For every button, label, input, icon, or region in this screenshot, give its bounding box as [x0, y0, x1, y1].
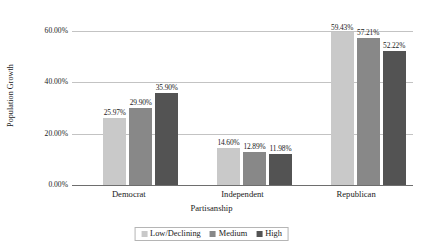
bar[interactable] — [217, 148, 240, 185]
bar-value-label: 59.43% — [331, 24, 353, 31]
bar[interactable] — [383, 51, 406, 185]
x-axis-title-text: Partisanship — [190, 203, 232, 213]
legend-swatch-icon — [256, 231, 262, 237]
bar-slot: 25.97% — [102, 30, 127, 185]
bar[interactable] — [155, 93, 178, 185]
x-axis-category-label: Democrat — [72, 189, 186, 199]
bar-value-label: 25.97% — [104, 109, 126, 116]
legend-label: Medium — [219, 230, 247, 238]
bar-chart: Population Growth 0.00%20.00%40.00%60.00… — [0, 0, 423, 252]
x-axis-category-label: Independent — [186, 189, 300, 199]
bar-slot: 59.43% — [330, 30, 355, 185]
bar-group-democrat: 25.97%29.90%35.90% — [102, 30, 180, 185]
bar-value-label: 52.22% — [383, 42, 405, 49]
x-axis-line — [72, 185, 413, 186]
legend-swatch-icon — [210, 231, 216, 237]
bar-slot: 52.22% — [382, 30, 407, 185]
legend-item[interactable]: Medium — [210, 230, 247, 238]
legend-item[interactable]: High — [256, 230, 282, 238]
bar-group-independent: 14.60%12.89%11.98% — [216, 30, 294, 185]
y-axis-tick-label: 20.00% — [22, 130, 68, 138]
bar-slot: 35.90% — [154, 30, 179, 185]
bar-slot: 57.21% — [356, 30, 381, 185]
x-axis-title: Partisanship — [0, 203, 423, 213]
bar-value-label: 12.89% — [243, 143, 265, 150]
bar-slot: 29.90% — [128, 30, 153, 185]
bar[interactable] — [331, 32, 354, 185]
y-axis-title: Population Growth — [2, 0, 18, 190]
bar[interactable] — [129, 108, 152, 185]
bar-value-label: 29.90% — [130, 99, 152, 106]
bar[interactable] — [269, 154, 292, 185]
legend-label: Low/Declining — [150, 230, 201, 238]
chart-legend: Low/DecliningMediumHigh — [134, 227, 289, 241]
bar[interactable] — [357, 38, 380, 185]
bar-slot: 11.98% — [268, 30, 293, 185]
bar-value-label: 11.98% — [270, 145, 292, 152]
y-axis-tick-label: 0.00% — [22, 181, 68, 189]
plot-area: 25.97%29.90%35.90%14.60%12.89%11.98%59.4… — [72, 0, 413, 252]
bar-value-label: 57.21% — [357, 29, 379, 36]
bar-value-label: 14.60% — [217, 139, 239, 146]
bar[interactable] — [243, 152, 266, 185]
bar-slot: 14.60% — [216, 30, 241, 185]
y-axis-tick-labels: 0.00%20.00%40.00%60.00% — [18, 0, 68, 252]
legend-swatch-icon — [141, 231, 147, 237]
bar-group-republican: 59.43%57.21%52.22% — [329, 30, 407, 185]
legend-item[interactable]: Low/Declining — [141, 230, 201, 238]
bar-slot: 12.89% — [242, 30, 267, 185]
y-axis-title-text: Population Growth — [6, 64, 15, 127]
y-axis-tick-label: 60.00% — [22, 27, 68, 35]
bar[interactable] — [103, 118, 126, 185]
y-axis-tick-label: 40.00% — [22, 79, 68, 87]
legend-label: High — [265, 230, 282, 238]
bar-value-label: 35.90% — [156, 84, 178, 91]
x-axis-category-label: Republican — [299, 189, 413, 199]
